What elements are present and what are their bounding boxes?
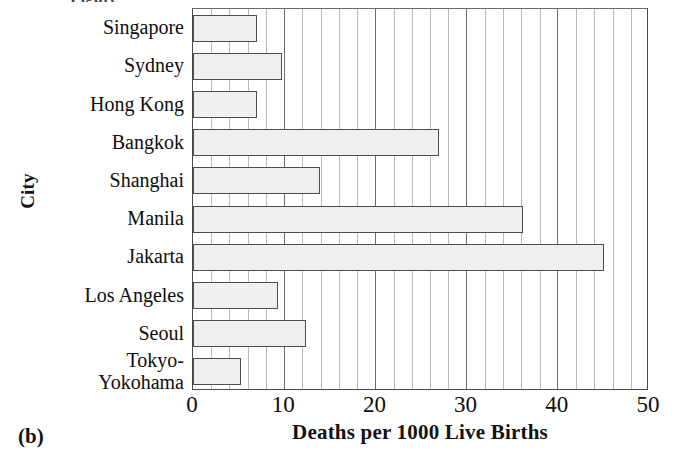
major-gridline — [557, 9, 558, 389]
x-axis-tick-label: 20 — [363, 392, 386, 418]
bar — [193, 206, 523, 233]
x-axis-tick-labels: 01020304050 — [192, 392, 648, 422]
minor-gridline — [613, 9, 614, 389]
major-gridline — [375, 9, 376, 389]
x-axis-tick-label: 0 — [186, 392, 198, 418]
x-axis-tick-label: 40 — [545, 392, 568, 418]
figure-caption: (b) — [18, 424, 44, 449]
x-axis-tick-label: 50 — [637, 392, 660, 418]
bar — [193, 167, 320, 194]
bar — [193, 282, 278, 309]
major-gridline — [466, 9, 467, 389]
y-axis-tick-label: Sydney — [124, 54, 184, 76]
y-axis-tick-label: Jakarta — [127, 245, 184, 267]
bar — [193, 129, 439, 156]
y-axis-tick-label: Shanghai — [110, 169, 184, 191]
bar — [193, 358, 241, 385]
bar — [193, 91, 257, 118]
y-axis-tick-label: Singapore — [103, 16, 184, 38]
minor-gridline — [631, 9, 632, 389]
minor-gridline — [357, 9, 358, 389]
y-axis-tick-label: Los Angeles — [85, 284, 184, 306]
minor-gridline — [412, 9, 413, 389]
minor-gridline — [339, 9, 340, 389]
bar — [193, 53, 282, 80]
y-axis-tick-label: Manila — [127, 207, 184, 229]
minor-gridline — [521, 9, 522, 389]
bar — [193, 320, 306, 347]
x-axis-title: Deaths per 1000 Live Births — [192, 420, 648, 445]
minor-gridline — [448, 9, 449, 389]
y-axis-tick-label: Tokyo- Yokohama — [98, 349, 184, 393]
minor-gridline — [576, 9, 577, 389]
y-axis-tick-label: Hong Kong — [90, 93, 184, 115]
x-axis-tick-label: 10 — [272, 392, 295, 418]
y-axis-tick-label: Bangkok — [112, 131, 184, 153]
minor-gridline — [503, 9, 504, 389]
minor-gridline — [394, 9, 395, 389]
y-axis-title: City — [17, 171, 39, 211]
top-cropped-caption: Figure — [70, 0, 400, 2]
minor-gridline — [485, 9, 486, 389]
plot-area — [192, 8, 648, 390]
minor-gridline — [540, 9, 541, 389]
y-axis-tick-label: Seoul — [138, 322, 184, 344]
minor-gridline — [594, 9, 595, 389]
minor-gridline — [321, 9, 322, 389]
x-axis-tick-label: 30 — [454, 392, 477, 418]
y-axis-tick-labels: SingaporeSydneyHong KongBangkokShanghaiM… — [40, 8, 188, 398]
bar — [193, 244, 604, 271]
minor-gridline — [430, 9, 431, 389]
bar — [193, 15, 257, 42]
